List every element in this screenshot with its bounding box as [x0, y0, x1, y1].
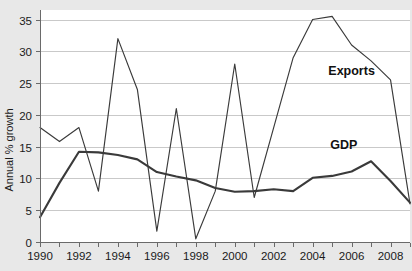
y-tick-label: 15	[19, 142, 32, 154]
y-tick-label: 0	[26, 237, 32, 249]
x-tick-label: 1990	[27, 250, 53, 262]
line-chart: 05101520253035 1990199219941996199820002…	[0, 0, 412, 271]
x-tick-label: 1994	[105, 250, 131, 262]
series-label-gdp: GDP	[330, 138, 357, 152]
series-label-exports: Exports	[328, 64, 375, 78]
x-tick-label: 1996	[144, 250, 170, 262]
y-tick-label: 20	[19, 110, 32, 122]
chart-container: 05101520253035 1990199219941996199820002…	[0, 0, 412, 271]
x-tick-label: 2006	[339, 250, 365, 262]
x-tick-label: 1992	[66, 250, 92, 262]
x-tick-label: 2002	[261, 250, 287, 262]
x-tick-label: 2000	[222, 250, 248, 262]
y-tick-label: 10	[19, 173, 32, 185]
x-tick-label: 1998	[183, 250, 209, 262]
y-tick-label: 25	[19, 78, 32, 90]
x-tick-label: 2008	[378, 250, 404, 262]
y-tick-label: 30	[19, 46, 32, 58]
y-axis-title: Annual % growth	[3, 108, 15, 191]
x-tick-label: 2004	[300, 250, 326, 262]
y-tick-label: 35	[19, 15, 32, 27]
y-tick-label: 5	[26, 205, 32, 217]
